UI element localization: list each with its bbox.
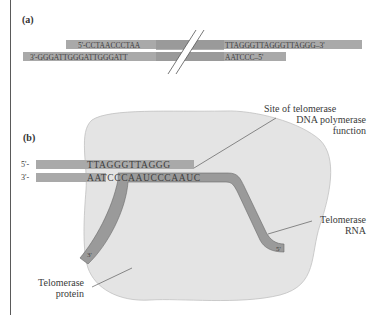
a-bottom-left-seq: 3'-GGGATTGGGATTGGGATT <box>30 53 128 62</box>
b-top-seq: TTAGGGTTAGGG <box>87 160 171 170</box>
a-top-left-seq: 5'-CCTAACCCTAA <box>78 41 141 50</box>
panel-b-label: (b) <box>23 132 35 143</box>
strand-5-end: 5'- <box>21 159 29 170</box>
a-bottom-right-seq: AATCCC–5' <box>225 53 264 62</box>
rna-label-line2: RNA <box>300 225 366 236</box>
site-label-line2: DNA polymerase <box>254 114 366 125</box>
b-bottom-seq: AATCCCAAUCCCAAUC <box>87 173 201 183</box>
protein-label-line2: protein <box>24 288 84 299</box>
rna-label-line1: Telomerase <box>300 214 366 225</box>
rna-3-end: 3' <box>87 251 92 259</box>
site-label-line1: Site of telomerase <box>264 103 374 114</box>
protein-label-line1: Telomerase <box>24 277 84 288</box>
panel-a-dna: 5'-CCTAACCCTAA TTAGGGTTAGGGTTAGGG–3' 3'-… <box>23 30 362 74</box>
rna-5-end: 5' <box>276 245 281 253</box>
a-top-right-seq: TTAGGGTTAGGGTTAGGG–3' <box>225 41 325 50</box>
site-label-line3: function <box>254 125 366 136</box>
diagram-canvas: 5'-CCTAACCCTAA TTAGGGTTAGGGTTAGGG–3' 3'-… <box>0 0 384 315</box>
strand-3-end: 3'- <box>21 172 29 183</box>
